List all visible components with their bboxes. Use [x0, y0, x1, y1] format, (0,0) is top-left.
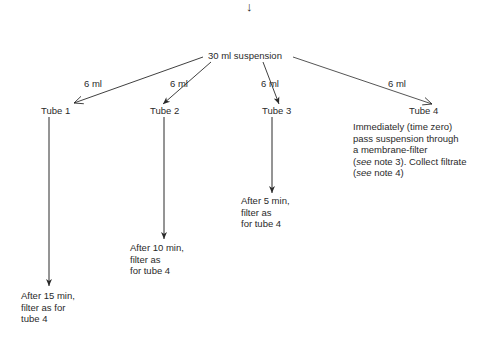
volume-label-1: 6 ml [84, 78, 102, 90]
volume-label-3: 6 ml [261, 78, 279, 90]
tube-3-instruction: After 5 min, filter as for tube 4 [241, 195, 290, 230]
tube-4-label: Tube 4 [409, 105, 438, 117]
tube-2-instruction: After 10 min, filter as for tube 4 [130, 242, 184, 277]
see-note-3-line: (see note 3). Collect filtrate [353, 156, 467, 168]
tube-4-instruction: Immediately (time zero) pass suspension … [353, 121, 467, 179]
arrow-to-tube4 [293, 57, 432, 104]
tube-1-instruction: After 15 min, filter as for tube 4 [21, 290, 75, 325]
tube-1-label: Tube 1 [41, 105, 70, 117]
tube-3-label: Tube 3 [262, 105, 291, 117]
top-arrow: ↓ [246, 1, 253, 13]
volume-label-4: 6 ml [388, 78, 406, 90]
see-note-4-line: (see note 4) [353, 167, 467, 179]
volume-label-2: 6 ml [170, 78, 188, 90]
root-label: 30 ml suspension [208, 50, 282, 62]
tube-2-label: Tube 2 [150, 105, 179, 117]
